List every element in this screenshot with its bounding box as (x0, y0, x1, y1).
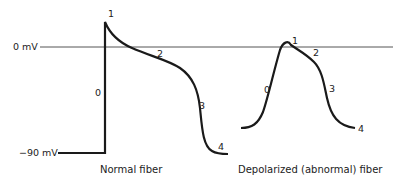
normal-fiber-trace (58, 22, 228, 154)
depolarized-phase-3-label: 3 (329, 84, 335, 94)
normal-fiber-caption: Normal fiber (100, 165, 162, 175)
action-potential-diagram: 0 mV −90 mV 0 1 2 3 4 0 1 2 3 4 Normal f… (0, 0, 402, 184)
normal-phase-0-label: 0 (95, 88, 101, 98)
resting-mv-label: −90 mV (19, 148, 58, 158)
depolarized-phase-2-label: 2 (313, 48, 319, 58)
normal-phase-3-label: 3 (199, 101, 205, 111)
depolarized-phase-1-label: 1 (292, 36, 298, 46)
depolarized-fiber-caption: Depolarized (abnormal) fiber (238, 165, 382, 175)
zero-mv-label: 0 mV (13, 42, 38, 52)
normal-phase-4-label: 4 (218, 142, 224, 152)
action-potential-traces (0, 0, 402, 184)
depolarized-phase-4-label: 4 (358, 124, 364, 134)
depolarized-fiber-trace (241, 42, 355, 128)
depolarized-phase-0-label: 0 (264, 85, 270, 95)
normal-phase-2-label: 2 (157, 49, 163, 59)
normal-phase-1-label: 1 (108, 9, 114, 19)
